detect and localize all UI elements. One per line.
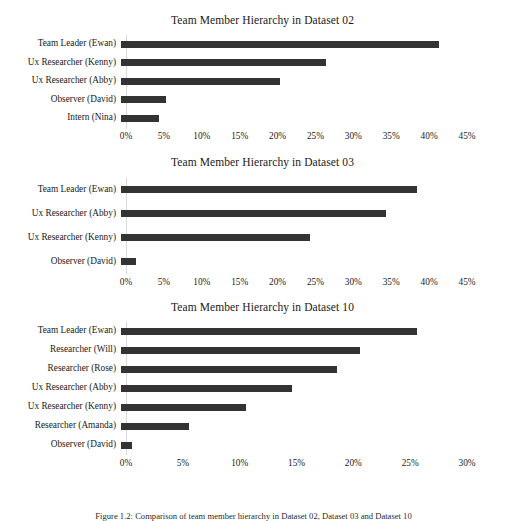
x-tick-label: 0% [120, 131, 132, 141]
bar[interactable] [121, 115, 159, 122]
bar-rows-dataset-03: Team Leader (Ewan)Ux Researcher (Abby)Ux… [0, 178, 507, 274]
bar-row: Team Leader (Ewan) [0, 178, 507, 202]
category-label: Ux Researcher (Abby) [0, 76, 121, 86]
bar-track [121, 398, 507, 417]
bar-row: Researcher (Rose) [0, 360, 507, 379]
bar[interactable] [121, 59, 326, 66]
bar-track [121, 436, 507, 455]
x-tick-label: 25% [307, 131, 324, 141]
x-tick-label: 10% [193, 131, 210, 141]
category-label: Team Leader (Ewan) [0, 326, 121, 336]
x-axis-dataset-02: 0%5%10%15%20%25%30%35%40%45% [0, 128, 507, 144]
x-tick-label: 25% [402, 458, 419, 468]
x-tick-label: 35% [383, 131, 400, 141]
bar-track [121, 109, 507, 128]
x-tick-label: 40% [421, 131, 438, 141]
plot-area-dataset-10: Team Leader (Ewan)Researcher (Will)Resea… [0, 322, 507, 455]
bar-track [121, 322, 507, 341]
bar-row: Ux Researcher (Kenny) [0, 54, 507, 73]
bar-row: Ux Researcher (Kenny) [0, 398, 507, 417]
bar-row: Ux Researcher (Kenny) [0, 226, 507, 250]
bar[interactable] [121, 210, 386, 217]
category-label: Observer (David) [0, 257, 121, 267]
bar-track [121, 226, 507, 250]
bar[interactable] [121, 328, 417, 335]
category-label: Ux Researcher (Kenny) [0, 58, 121, 68]
x-tick-label: 45% [458, 131, 475, 141]
x-tick-label: 30% [458, 458, 475, 468]
x-tick-label: 20% [269, 131, 286, 141]
category-label: Team Leader (Ewan) [0, 185, 121, 195]
x-axis-dataset-03: 0%5%10%15%20%25%30%35%40%45% [0, 274, 507, 290]
bar[interactable] [121, 234, 310, 241]
bar-track [121, 72, 507, 91]
x-tick-label: 0% [120, 277, 132, 287]
plot-area-dataset-02: Team Leader (Ewan)Ux Researcher (Kenny)U… [0, 35, 507, 128]
category-label: Intern (Nina) [0, 113, 121, 123]
bar[interactable] [121, 423, 189, 430]
bar-rows-dataset-02: Team Leader (Ewan)Ux Researcher (Kenny)U… [0, 35, 507, 128]
category-label: Ux Researcher (Abby) [0, 383, 121, 393]
category-label: Observer (David) [0, 95, 121, 105]
category-label: Ux Researcher (Abby) [0, 209, 121, 219]
category-label: Ux Researcher (Kenny) [0, 402, 121, 412]
chart-block-dataset-03: Team Member Hierarchy in Dataset 03 Team… [0, 144, 507, 290]
bar-track [121, 341, 507, 360]
x-tick-label: 20% [345, 458, 362, 468]
x-tick-label: 0% [120, 458, 132, 468]
x-tick-label: 5% [177, 458, 189, 468]
bar[interactable] [121, 366, 337, 373]
bar[interactable] [121, 442, 132, 449]
bar-row: Researcher (Will) [0, 341, 507, 360]
x-axis-dataset-10: 0%5%10%15%20%25%30% [0, 455, 507, 471]
chart-title-dataset-02: Team Member Hierarchy in Dataset 02 [0, 14, 507, 26]
x-tick-label: 45% [458, 277, 475, 287]
bar-track [121, 91, 507, 110]
x-tick-label: 40% [421, 277, 438, 287]
bar-row: Team Leader (Ewan) [0, 322, 507, 341]
bar-row: Observer (David) [0, 250, 507, 274]
figure-caption: Figure 1.2: Comparison of team member hi… [0, 511, 507, 521]
category-label: Researcher (Rose) [0, 364, 121, 374]
x-tick-label: 30% [345, 131, 362, 141]
category-label: Researcher (Will) [0, 345, 121, 355]
bar[interactable] [121, 78, 280, 85]
plot-area-dataset-03: Team Leader (Ewan)Ux Researcher (Abby)Ux… [0, 178, 507, 274]
bar-rows-dataset-10: Team Leader (Ewan)Researcher (Will)Resea… [0, 322, 507, 455]
bar[interactable] [121, 96, 166, 103]
category-label: Observer (David) [0, 440, 121, 450]
category-label: Researcher (Amanda) [0, 421, 121, 431]
x-tick-label: 20% [269, 277, 286, 287]
bar-track [121, 54, 507, 73]
bar[interactable] [121, 404, 246, 411]
x-tick-label: 15% [288, 458, 305, 468]
bar-track [121, 417, 507, 436]
bar[interactable] [121, 347, 360, 354]
bar-track [121, 35, 507, 54]
chart-block-dataset-10: Team Member Hierarchy in Dataset 10 Team… [0, 290, 507, 471]
bar-track [121, 379, 507, 398]
bar-row: Observer (David) [0, 91, 507, 110]
bar-track [121, 360, 507, 379]
bar-row: Ux Researcher (Abby) [0, 72, 507, 91]
bar[interactable] [121, 186, 417, 193]
x-tick-label: 30% [345, 277, 362, 287]
x-tick-label: 15% [231, 277, 248, 287]
bar-row: Ux Researcher (Abby) [0, 202, 507, 226]
x-tick-label: 10% [193, 277, 210, 287]
bar-track [121, 202, 507, 226]
chart-title-dataset-10: Team Member Hierarchy in Dataset 10 [0, 301, 507, 313]
bar[interactable] [121, 258, 136, 265]
bar-row: Intern (Nina) [0, 109, 507, 128]
x-tick-label: 25% [307, 277, 324, 287]
chart-block-dataset-02: Team Member Hierarchy in Dataset 02 Team… [0, 0, 507, 144]
category-label: Team Leader (Ewan) [0, 39, 121, 49]
bar-track [121, 178, 507, 202]
x-tick-label: 5% [158, 277, 170, 287]
bar-row: Team Leader (Ewan) [0, 35, 507, 54]
x-tick-label: 35% [383, 277, 400, 287]
bar[interactable] [121, 385, 292, 392]
x-tick-label: 15% [231, 131, 248, 141]
bar[interactable] [121, 41, 439, 48]
